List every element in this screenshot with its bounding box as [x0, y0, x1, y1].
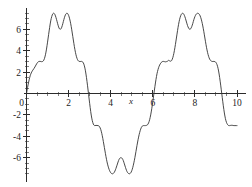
y-tick-label: 4	[16, 46, 21, 56]
x-tick-label: 2	[66, 98, 71, 108]
y-tick-label: -4	[13, 132, 21, 142]
x-tick-label: 10	[232, 98, 242, 108]
x-tick-label: 6	[150, 98, 155, 108]
x-tick-label: 8	[193, 98, 198, 108]
chart-figure: 0246810 -6-4-2246 x	[0, 0, 252, 187]
y-tick-label: -6	[13, 153, 21, 163]
y-tick-label: 6	[16, 25, 21, 35]
y-axis-tick-labels: -6-4-2246	[13, 25, 21, 163]
plot-area: 0246810 -6-4-2246 x	[0, 0, 252, 187]
y-tick-label: 2	[16, 68, 21, 78]
x-tick-label: 4	[108, 98, 113, 108]
x-axis-label: x	[128, 96, 133, 106]
y-tick-label: -2	[13, 110, 21, 120]
x-tick-label: 0	[19, 98, 24, 108]
